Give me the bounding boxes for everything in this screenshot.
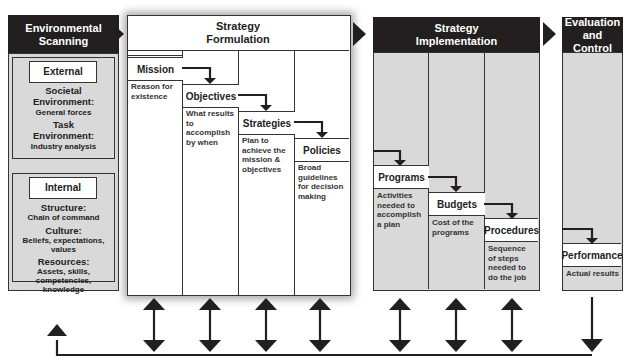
flow-arrows [0,0,631,363]
double-arrow-icon [143,298,165,352]
